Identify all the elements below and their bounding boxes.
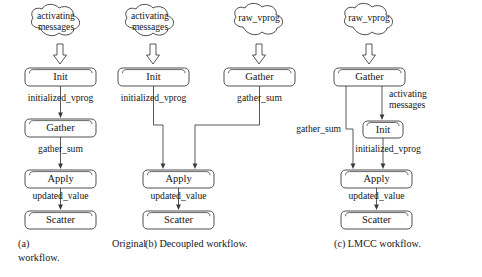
panel-c-block-arrow-to-gather	[363, 44, 376, 64]
edge-label-updated-value: updated_value	[349, 190, 405, 201]
cloud-label-line1: raw_vprog	[348, 12, 390, 23]
node-label: Gather	[355, 71, 384, 82]
panel-c-edge-gather-apply: gather_sum	[296, 86, 355, 169]
panel-c-graphics: raw_vprog Gather activating messages Ini…	[0, 0, 482, 277]
edge-label-gather-sum: gather_sum	[296, 123, 341, 134]
edge-label-initialized-vprog: initialized_vprog	[355, 143, 421, 154]
edge-label-messages: messages	[389, 99, 426, 110]
node-label: Scatter	[362, 214, 392, 225]
panel-c-edge-gather-init: activating messages	[380, 86, 427, 120]
panel-c-init-node: Init	[363, 121, 403, 138]
panel-c-scatter-node: Scatter	[341, 211, 412, 229]
panel-c-caption-word1: LMCC	[348, 238, 377, 249]
panel-c-edge-apply-scatter: updated_value	[349, 188, 405, 210]
figure-canvas: activating messages Init initialized_vpr…	[0, 0, 482, 277]
node-label: Apply	[363, 173, 390, 184]
panel-c-apply-node: Apply	[341, 170, 412, 188]
panel-c-gather-node: Gather	[334, 68, 405, 86]
panel-c-caption-label: (c)	[334, 238, 345, 249]
panel-c-edge-init-apply: initialized_vprog	[355, 138, 421, 169]
panel-c-caption-word2: workflow.	[379, 238, 421, 249]
panel-c-raw-vprog-cloud: raw_vprog	[344, 3, 392, 34]
panel-c-caption: (c) LMCC workflow.	[334, 237, 421, 251]
edge-label-activating: activating	[389, 88, 427, 99]
node-label: Init	[376, 124, 391, 135]
